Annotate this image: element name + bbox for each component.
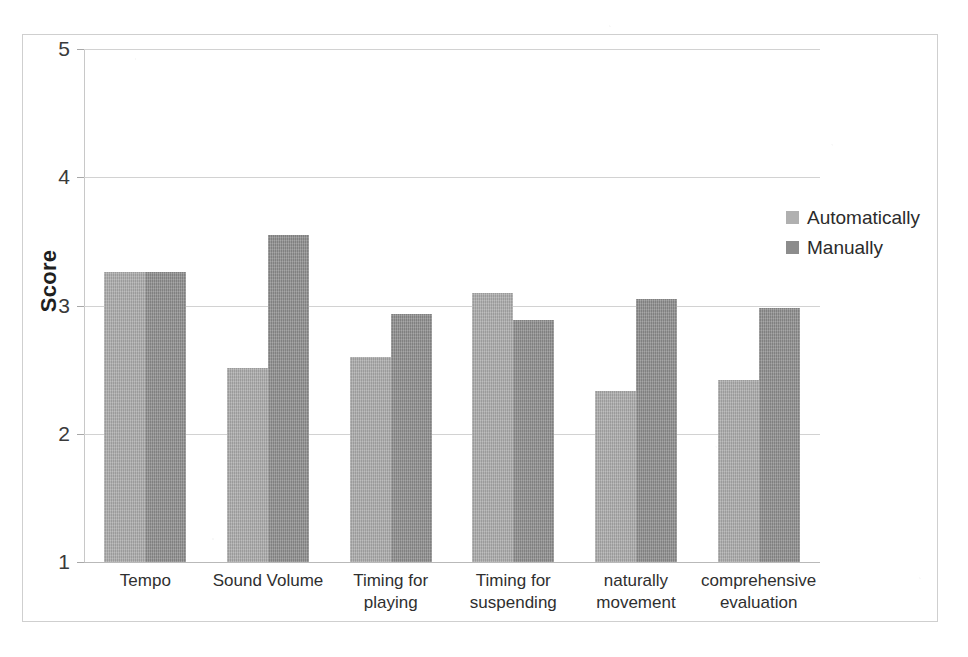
category-label-line1: Timing for	[323, 570, 458, 592]
category-label-line2: movement	[569, 592, 704, 614]
category-label-4: naturallymovement	[569, 570, 704, 614]
category-label-line1: Sound Volume	[201, 570, 336, 592]
bar-manually-5	[759, 308, 800, 562]
gridline-4	[84, 177, 820, 178]
legend-item-manually[interactable]: Manually	[786, 238, 946, 257]
bar-automatically-3	[472, 293, 513, 562]
category-label-line1: Timing for	[446, 570, 581, 592]
category-label-3: Timing forsuspending	[446, 570, 581, 614]
bar-automatically-1	[227, 368, 268, 562]
legend-label: Automatically	[807, 208, 920, 227]
gridline-3	[84, 306, 820, 307]
tick-mark-2	[77, 434, 84, 435]
tick-mark-1	[77, 562, 84, 563]
category-label-2: Timing forplaying	[323, 570, 458, 614]
gridline-5	[84, 49, 820, 50]
bar-manually-4	[636, 299, 677, 562]
bar-manually-1	[268, 235, 309, 562]
category-label-5: comprehensiveevaluation	[691, 570, 826, 614]
y-tick-label-5: 5	[44, 38, 70, 59]
category-label-line1: Tempo	[78, 570, 213, 592]
category-label-line2: playing	[323, 592, 458, 614]
legend-label: Manually	[807, 238, 883, 257]
legend-item-automatically[interactable]: Automatically	[786, 208, 946, 227]
gridline-2	[84, 434, 820, 435]
category-label-line2: evaluation	[691, 592, 826, 614]
y-tick-label-2: 2	[44, 423, 70, 444]
tick-mark-3	[77, 306, 84, 307]
y-axis-title: Score	[36, 226, 62, 336]
category-label-0: Tempo	[78, 570, 213, 592]
plot-area	[84, 49, 820, 562]
bar-manually-2	[391, 314, 432, 562]
bar-manually-3	[513, 320, 554, 562]
bar-manually-0	[145, 272, 186, 562]
bar-automatically-2	[350, 357, 391, 562]
bar-automatically-5	[718, 380, 759, 562]
category-label-line1: naturally	[569, 570, 704, 592]
chart-legend: AutomaticallyManually	[786, 208, 946, 268]
tick-mark-4	[77, 177, 84, 178]
category-label-line2: suspending	[446, 592, 581, 614]
category-label-1: Sound Volume	[201, 570, 336, 592]
gridline-1	[84, 562, 820, 563]
tick-mark-5	[77, 49, 84, 50]
legend-swatch-icon	[786, 241, 799, 254]
bar-automatically-0	[104, 272, 145, 562]
legend-swatch-icon	[786, 211, 799, 224]
y-tick-label-4: 4	[44, 166, 70, 187]
y-tick-label-1: 1	[44, 551, 70, 572]
category-label-line1: comprehensive	[691, 570, 826, 592]
bar-automatically-4	[595, 391, 636, 562]
